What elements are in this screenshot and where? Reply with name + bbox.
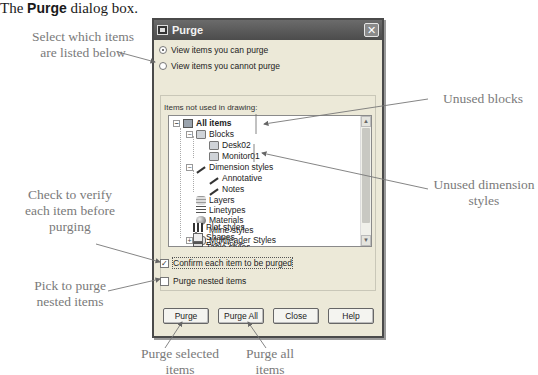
tree-guide-line: [193, 170, 194, 192]
scroll-thumb[interactable]: [362, 128, 370, 223]
dialog-title: Purge: [172, 24, 364, 36]
tree-item-monitor01[interactable]: Monitor01: [209, 151, 260, 161]
close-dialog-button[interactable]: Close: [273, 308, 319, 324]
callout-purge-all: Purge all items: [235, 346, 305, 375]
tree-label: Dimension styles: [209, 162, 273, 172]
confirm-each-item-checkbox[interactable]: ✓ Confirm each item to be purged: [160, 258, 292, 268]
purge-button[interactable]: Purge: [163, 308, 209, 324]
tree-label: Desk02: [222, 140, 251, 150]
tree-item-plot-styles-visible[interactable]: Plot styles: [193, 222, 245, 232]
tree-item-linetypes[interactable]: Linetypes: [196, 205, 245, 215]
callout-nested: Pick to purge nested items: [25, 278, 115, 310]
radio-view-purgeable[interactable]: View items you can purge: [159, 45, 268, 55]
tree-label: Layers: [209, 195, 235, 205]
purge-nested-items-checkbox[interactable]: Purge nested items: [160, 276, 246, 286]
callout-verify: Check to verify each item before purging: [20, 187, 120, 235]
collapse-icon[interactable]: −: [186, 164, 193, 171]
collapse-icon[interactable]: −: [173, 120, 180, 127]
checkbox-label: Confirm each item to be purged: [173, 258, 292, 268]
tree-item-all-items[interactable]: − All items: [173, 118, 231, 128]
radio-selected-icon[interactable]: [159, 46, 167, 54]
radio-view-nonpurgeable[interactable]: View items you cannot purge: [159, 61, 280, 71]
tree-label: Shapes: [206, 232, 235, 242]
tree-item-dimension-styles[interactable]: − Dimension styles: [186, 162, 273, 172]
scroll-up-button[interactable]: ▲: [361, 116, 371, 127]
purge-all-button[interactable]: Purge All: [218, 308, 264, 324]
tree-label: Monitor01: [222, 151, 260, 161]
tree-item-desk02[interactable]: Desk02: [209, 140, 251, 150]
all-items-icon: [183, 119, 193, 128]
tree-label: Blocks: [209, 129, 234, 139]
checkbox-checked-icon[interactable]: ✓: [160, 259, 169, 268]
caption-bold: Purge: [27, 0, 67, 16]
caption-prefix: The: [0, 0, 27, 16]
tree-item-shapes[interactable]: Shapes: [193, 232, 235, 242]
expand-icon[interactable]: +: [186, 237, 193, 244]
tree-item-blocks[interactable]: − Blocks: [186, 129, 234, 139]
checkbox-label: Purge nested items: [173, 276, 246, 286]
title-bar[interactable]: Purge ✕: [154, 20, 382, 40]
linetypes-icon: [196, 206, 206, 215]
tree-item-annotative[interactable]: Annotative: [209, 173, 262, 183]
close-button[interactable]: ✕: [364, 23, 379, 37]
app-icon: [157, 25, 168, 35]
layers-icon: [196, 196, 206, 205]
tree-guide-line: [180, 128, 181, 238]
callout-select-items: Select which items are listed below: [28, 29, 138, 61]
tree-item-table-styles[interactable]: Table styles: [193, 242, 250, 247]
dimension-style-icon: [209, 185, 219, 194]
tree-label: Annotative: [222, 173, 262, 183]
tree-scrollbar[interactable]: ▲ ▼: [360, 116, 371, 246]
plot-styles-icon: [193, 223, 203, 232]
help-button[interactable]: Help: [328, 308, 374, 324]
shapes-icon: [193, 233, 203, 242]
tree-item-layers[interactable]: Layers: [196, 195, 235, 205]
callout-unused-dimension-styles: Unused dimension styles: [430, 177, 538, 209]
callout-purge-selected: Purge selected items: [135, 346, 225, 375]
dimension-style-icon: [196, 163, 206, 172]
radio-label: View items you cannot purge: [171, 61, 280, 71]
checkbox-unchecked-icon[interactable]: [160, 277, 169, 286]
figure-caption: The Purge dialog box.: [0, 0, 138, 17]
block-icon: [209, 141, 219, 150]
tree-label: Table styles: [206, 242, 250, 247]
dimension-style-icon: [209, 174, 219, 183]
collapse-icon[interactable]: −: [186, 131, 193, 138]
table-styles-icon: [193, 242, 203, 247]
tree-label: Notes: [222, 184, 244, 194]
tree-label: All items: [196, 118, 231, 128]
callout-unused-blocks: Unused blocks: [428, 91, 538, 107]
block-icon: [209, 152, 219, 161]
scroll-down-button[interactable]: ▼: [361, 235, 371, 246]
radio-unselected-icon[interactable]: [159, 62, 167, 70]
blocks-icon: [196, 130, 206, 139]
group-label: Items not used in drawing:: [164, 103, 257, 112]
radio-label: View items you can purge: [171, 45, 268, 55]
tree-guide-line: [193, 136, 194, 158]
tree-label: Plot styles: [206, 222, 245, 232]
purge-dialog: Purge ✕ View items you can purge View it…: [152, 18, 384, 338]
caption-suffix: dialog box.: [67, 0, 138, 16]
tree-label: Linetypes: [209, 205, 245, 215]
tree-item-notes[interactable]: Notes: [209, 184, 244, 194]
